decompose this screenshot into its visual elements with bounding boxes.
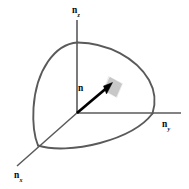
arc-zx-plane (33, 43, 77, 146)
axis-label-nx-main: n (14, 170, 19, 180)
normal-vector-octant-figure: nz ny nx n (0, 0, 189, 189)
axis-label-nz-sub: z (78, 12, 80, 18)
axis-label-nz-main: n (72, 5, 77, 15)
figure-canvas (0, 0, 189, 189)
arc-xy-plane (38, 114, 153, 149)
vector-label-n: n (78, 84, 83, 94)
axis-label-nz: nz (72, 6, 80, 17)
n-x-axis-line (17, 112, 78, 166)
axis-label-nx-sub: x (20, 177, 23, 183)
axis-label-ny-main: n (162, 119, 167, 129)
axis-label-ny: ny (162, 120, 170, 131)
axis-label-nx: nx (14, 171, 22, 182)
octant-arcs-group (33, 43, 154, 149)
axis-label-ny-sub: y (168, 126, 171, 132)
